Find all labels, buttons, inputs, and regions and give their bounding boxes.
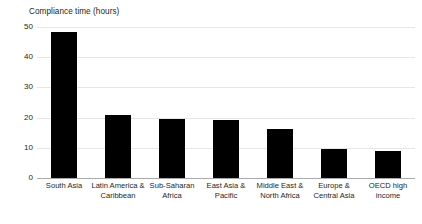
bar[interactable] [321, 149, 347, 178]
x-axis-labels: South AsiaLatin America &CaribbeanSub-Sa… [37, 181, 415, 221]
bar-chart: Compliance time (hours) 01020304050 Sout… [0, 0, 422, 224]
bar[interactable] [375, 151, 401, 178]
y-axis-tick-label: 30 [24, 83, 33, 91]
y-axis-tick-label: 40 [24, 53, 33, 61]
x-axis-category-label-line: OECD high [357, 181, 419, 191]
y-axis-tick-label: 20 [24, 114, 33, 122]
x-axis-category-label-line: Africa [141, 191, 203, 201]
bar-slot [253, 27, 307, 178]
x-axis-category-label-line: North Africa [249, 191, 311, 201]
page-title: Compliance time (hours) [29, 6, 119, 17]
x-axis-category-label-line: South Asia [33, 181, 95, 191]
x-axis-category-label-line: Sub-Saharan [141, 181, 203, 191]
plot-area: 01020304050 [37, 27, 415, 178]
x-axis-category-label: OECD highincome [357, 181, 419, 201]
x-axis-category-label-line: Middle East & [249, 181, 311, 191]
bar-slot [361, 27, 415, 178]
bar[interactable] [213, 120, 239, 178]
bar[interactable] [105, 115, 131, 178]
x-axis-category-label: South Asia [33, 181, 95, 191]
x-axis-category-label: Europe &Central Asia [303, 181, 365, 201]
x-axis-category-label-line: Pacific [195, 191, 257, 201]
bar-slot [199, 27, 253, 178]
bar-slot [37, 27, 91, 178]
x-axis-category-label-line: Latin America & [87, 181, 149, 191]
bar-series [37, 27, 415, 178]
bar-slot [145, 27, 199, 178]
x-axis-category-label-line: East Asia & [195, 181, 257, 191]
bar[interactable] [159, 119, 185, 178]
bar[interactable] [267, 129, 293, 178]
y-axis-tick-label: 10 [24, 144, 33, 152]
x-axis-category-label: Sub-SaharanAfrica [141, 181, 203, 201]
x-axis-category-label: Latin America &Caribbean [87, 181, 149, 201]
bar-slot [91, 27, 145, 178]
bar[interactable] [51, 32, 77, 178]
bar-slot [307, 27, 361, 178]
axis-line-baseline: 0 [37, 178, 415, 179]
y-axis-tick-label: 50 [24, 23, 33, 31]
x-axis-category-label-line: Caribbean [87, 191, 149, 201]
x-axis-category-label-line: income [357, 191, 419, 201]
x-axis-category-label-line: Europe & [303, 181, 365, 191]
x-axis-category-label: East Asia &Pacific [195, 181, 257, 201]
x-axis-category-label-line: Central Asia [303, 191, 365, 201]
x-axis-category-label: Middle East &North Africa [249, 181, 311, 201]
